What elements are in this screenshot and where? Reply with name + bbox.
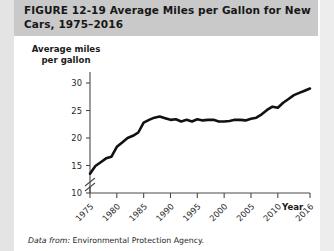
source-note-lead: Data from: bbox=[28, 236, 70, 245]
x-tick-group: 197519801985199019952000200520102016 bbox=[73, 193, 315, 223]
x-tick-label: 2010 bbox=[261, 201, 283, 223]
left-page-margin bbox=[0, 0, 14, 251]
figure-title-band: FIGURE 12-19 Average Miles per Gallon fo… bbox=[14, 0, 318, 36]
x-tick-label: 2005 bbox=[234, 201, 256, 223]
right-page-margin bbox=[320, 0, 334, 251]
y-tick-label: 25 bbox=[71, 106, 82, 116]
x-tick-label: 1980 bbox=[100, 201, 122, 223]
chart-plot-area: Average miles per gallon Year 1015202530… bbox=[14, 36, 320, 228]
x-tick-label: 1990 bbox=[154, 201, 176, 223]
x-tick-label: 1975 bbox=[73, 201, 95, 223]
y-tick-label: 20 bbox=[71, 133, 82, 143]
x-tick-label: 2000 bbox=[207, 201, 229, 223]
y-tick-label: 10 bbox=[71, 188, 82, 198]
data-series-line bbox=[90, 89, 310, 174]
line-chart-svg: 1015202530 19751980198519901995200020052… bbox=[14, 36, 320, 228]
source-note: Data from: Environmental Protection Agen… bbox=[28, 236, 204, 245]
figure-title: FIGURE 12-19 Average Miles per Gallon fo… bbox=[24, 3, 312, 31]
y-tick-label: 30 bbox=[71, 78, 82, 88]
x-tick-label: 2016 bbox=[293, 201, 315, 223]
x-tick-label: 1995 bbox=[181, 201, 203, 223]
y-tick-group: 1015202530 bbox=[71, 78, 90, 198]
x-tick-label: 1985 bbox=[127, 201, 149, 223]
source-note-text: Environmental Protection Agency. bbox=[73, 236, 204, 245]
y-tick-label: 15 bbox=[71, 161, 82, 171]
